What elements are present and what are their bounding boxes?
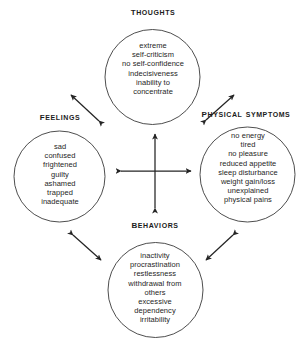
list-item: inability to	[105, 78, 201, 87]
list-item: weight gain/loss	[199, 177, 297, 186]
heading-feelings: Feelings	[0, 111, 120, 123]
list-item: excessive	[106, 297, 204, 306]
items-physical-symptoms: no energytiredno pleasurereduced appetit…	[199, 131, 297, 205]
list-item: others	[106, 288, 204, 297]
items-thoughts: extremeself-criticismno self-confidencei…	[105, 41, 201, 96]
list-item: ashamed	[14, 179, 106, 188]
list-item: inactivity	[106, 251, 204, 260]
heading-behaviors: Behaviors	[80, 219, 230, 231]
list-item: inadequate	[14, 197, 106, 206]
list-item: unexplained	[199, 186, 297, 195]
list-item: procrastination	[106, 260, 204, 269]
heading-thoughts: Thoughts	[78, 6, 228, 18]
list-item: sleep disturbance	[199, 168, 297, 177]
list-item: guilty	[14, 170, 106, 179]
list-item: tired	[199, 140, 297, 149]
list-item: confused	[14, 151, 106, 160]
list-item: self-criticism	[105, 50, 201, 59]
diagram-canvas: Thoughts Feelings Physical symptoms Beha…	[0, 0, 306, 346]
list-item: no energy	[199, 131, 297, 140]
list-item: concentrate	[105, 87, 201, 96]
list-item: frightened	[14, 160, 106, 169]
arrow-behaviors-physical	[206, 235, 233, 260]
list-item: extreme	[105, 41, 201, 50]
list-item: reduced appetite	[199, 159, 297, 168]
list-item: no self-confidence	[105, 59, 201, 68]
list-item: irritability	[106, 315, 204, 324]
list-item: no pleasure	[199, 149, 297, 158]
list-item: trapped	[14, 188, 106, 197]
list-item: withdrawal from	[106, 279, 204, 288]
heading-physical-symptoms: Physical symptoms	[186, 108, 306, 120]
list-item: restlessness	[106, 269, 204, 278]
list-item: sad	[14, 142, 106, 151]
items-feelings: sadconfusedfrightenedguiltyashamedtrappe…	[14, 142, 106, 206]
list-item: physical pains	[199, 195, 297, 204]
list-item: dependency	[106, 306, 204, 315]
list-item: indecisiveness	[105, 69, 201, 78]
items-behaviors: inactivityprocrastinationrestlessnesswit…	[106, 251, 204, 325]
arrow-feelings-behaviors	[73, 235, 101, 260]
